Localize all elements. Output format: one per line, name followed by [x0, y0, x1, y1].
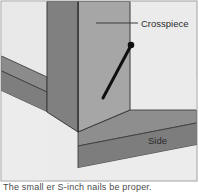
- crosspiece-right-face: [78, 2, 130, 133]
- joinery-illustration: Crosspiece Side: [0, 0, 199, 194]
- figure-caption: The small er S-inch nails be proper.: [3, 183, 152, 192]
- label-crosspiece: Crosspiece: [141, 18, 189, 29]
- crosspiece-left-face: [47, 2, 78, 133]
- figure-root: Crosspiece Side The small er S-inch nail…: [0, 0, 199, 194]
- label-side: Side: [148, 135, 167, 146]
- nail-head-icon: [128, 42, 135, 49]
- floor-far-light-band: [130, 78, 197, 110]
- caption-strip: The small er S-inch nails be proper.: [0, 183, 199, 194]
